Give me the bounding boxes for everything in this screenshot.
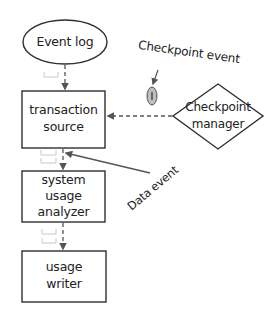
checkpoint-event-pointer bbox=[153, 70, 158, 84]
checkpoint-manager-node[interactable] bbox=[173, 84, 263, 149]
data-event-pointer bbox=[66, 153, 150, 173]
system-usage-analyzer-node[interactable] bbox=[22, 171, 105, 222]
event-log-node[interactable] bbox=[23, 20, 107, 64]
envelope-icon bbox=[41, 72, 58, 243]
transaction-source-node[interactable] bbox=[22, 91, 105, 148]
usage-writer-node[interactable] bbox=[22, 251, 106, 302]
